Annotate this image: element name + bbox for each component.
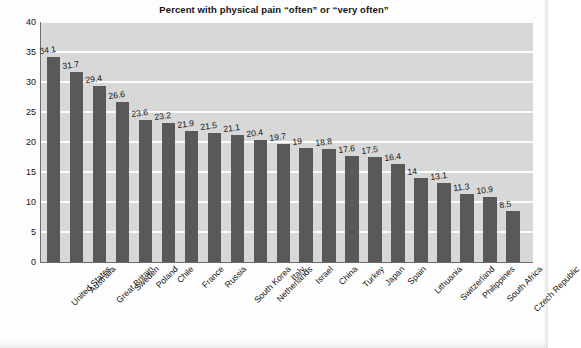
y-axis-tick-labels: 0510152025303540 xyxy=(0,22,40,262)
bar-slot[interactable]: 23.6 xyxy=(134,22,157,262)
bar-value-label: 26.6 xyxy=(108,89,126,101)
bar[interactable] xyxy=(47,57,60,262)
x-tick-label: France xyxy=(200,264,226,290)
bar[interactable] xyxy=(414,178,427,262)
chart-title: Percent with physical pain “often” or “v… xyxy=(0,4,548,15)
bar-value-label: 8.5 xyxy=(499,199,512,210)
bar[interactable] xyxy=(116,102,129,262)
x-tick-label: Spain xyxy=(405,264,428,287)
bar-slot[interactable]: 21.1 xyxy=(226,22,249,262)
x-tick-label: Japan xyxy=(383,264,407,288)
bar-value-label: 21.5 xyxy=(200,120,218,132)
bar[interactable] xyxy=(162,123,175,262)
bar-series: 34.131.729.426.623.623.221.921.521.120.4… xyxy=(40,22,532,262)
bar-slot[interactable]: 21.5 xyxy=(203,22,226,262)
bar-slot[interactable]: 16.4 xyxy=(387,22,410,262)
bar[interactable] xyxy=(277,144,290,262)
bar[interactable] xyxy=(299,148,312,262)
bar-value-label: 21.1 xyxy=(223,122,241,134)
bar-value-label: 19.7 xyxy=(269,131,287,143)
x-tick-label: Turkey xyxy=(360,264,385,289)
bar-slot[interactable]: 17.6 xyxy=(341,22,364,262)
bar-slot[interactable]: 26.6 xyxy=(111,22,134,262)
bar[interactable] xyxy=(185,131,198,262)
y-tick-label: 5 xyxy=(31,227,36,237)
bar-value-label: 34.1 xyxy=(39,44,57,56)
bar-slot[interactable]: 8.5 xyxy=(502,22,525,262)
y-tick-label: 25 xyxy=(26,107,36,117)
bar-slot[interactable]: 20.4 xyxy=(249,22,272,262)
bar-slot[interactable]: 18.8 xyxy=(318,22,341,262)
bar[interactable] xyxy=(345,156,358,262)
bar-slot[interactable]: 10.9 xyxy=(479,22,502,262)
bar-slot[interactable]: 21.9 xyxy=(180,22,203,262)
x-axis-tick-labels: United StatesAustraliaGreat BritainSwede… xyxy=(40,264,532,344)
bar-slot[interactable]: 11.3 xyxy=(456,22,479,262)
bar[interactable] xyxy=(139,120,152,262)
bar-value-label: 19 xyxy=(292,136,303,147)
bar-slot[interactable]: 14 xyxy=(410,22,433,262)
y-tick-label: 40 xyxy=(26,17,36,27)
bar-value-label: 16.4 xyxy=(384,151,402,163)
bar[interactable] xyxy=(70,72,83,262)
bar-value-label: 29.4 xyxy=(85,73,103,85)
bar-value-label: 14 xyxy=(407,166,418,177)
bar[interactable] xyxy=(391,164,404,262)
bar-value-label: 21.9 xyxy=(177,118,195,130)
bar[interactable] xyxy=(93,86,106,262)
bar-value-label: 23.2 xyxy=(154,110,172,122)
bar-slot[interactable]: 31.7 xyxy=(65,22,88,262)
x-tick-label: Lithuania xyxy=(432,264,464,296)
bar-value-label: 31.7 xyxy=(62,59,80,71)
bar-slot[interactable]: 29.4 xyxy=(88,22,111,262)
bar-value-label: 11.3 xyxy=(453,181,470,193)
x-tick-label: Russia xyxy=(223,264,249,290)
bar-value-label: 20.4 xyxy=(246,127,264,139)
bar-value-label: 23.6 xyxy=(131,107,149,119)
bar-slot[interactable]: 23.2 xyxy=(157,22,180,262)
y-tick-label: 20 xyxy=(26,137,36,147)
bar-slot[interactable]: 13.1 xyxy=(433,22,456,262)
bar[interactable] xyxy=(254,140,267,262)
bar-value-label: 18.8 xyxy=(315,136,333,148)
bar[interactable] xyxy=(322,149,335,262)
bar-slot[interactable]: 17.5 xyxy=(364,22,387,262)
bar-slot[interactable]: 34.1 xyxy=(42,22,65,262)
y-tick-label: 35 xyxy=(26,47,36,57)
bar-value-label: 17.5 xyxy=(361,144,379,156)
bar-value-label: 13.1 xyxy=(430,170,448,182)
bar[interactable] xyxy=(460,194,473,262)
y-tick-label: 10 xyxy=(26,197,36,207)
bar[interactable] xyxy=(437,183,450,262)
bar[interactable] xyxy=(368,157,381,262)
y-tick-label: 0 xyxy=(31,257,36,267)
bar[interactable] xyxy=(506,211,519,262)
bar[interactable] xyxy=(231,135,244,262)
x-tick-label: Israel xyxy=(313,264,335,286)
y-tick-label: 30 xyxy=(26,77,36,87)
x-tick-label: China xyxy=(336,264,359,287)
bar-value-label: 10.9 xyxy=(476,184,494,196)
x-tick-label: Chile xyxy=(175,264,196,285)
bar-value-label: 17.6 xyxy=(338,143,356,155)
bar[interactable] xyxy=(483,197,496,262)
bar[interactable] xyxy=(208,133,221,262)
y-tick-label: 15 xyxy=(26,167,36,177)
